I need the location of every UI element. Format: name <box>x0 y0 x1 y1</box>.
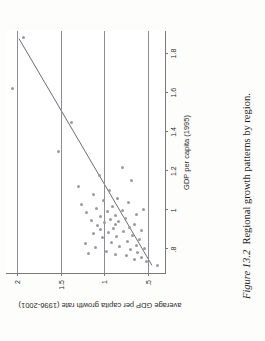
chart-plot-wrapper: .511.52.811.21.41.61.8 GDP per capita (1… <box>0 21 200 321</box>
scatter-point <box>92 193 95 196</box>
x-axis-tick <box>165 53 168 54</box>
x-axis-tick <box>165 248 168 249</box>
x-axis-tick-label: 1.4 <box>170 127 177 137</box>
scatter-point <box>135 244 138 247</box>
scatter-point <box>124 217 127 220</box>
scatter-point <box>106 210 109 213</box>
y-axis-tick <box>17 273 18 276</box>
scatter-point <box>111 205 114 208</box>
scatter-point <box>143 247 146 250</box>
gridline <box>61 31 62 273</box>
x-axis-tick-label: 1.6 <box>170 88 177 98</box>
scatter-point <box>121 209 124 212</box>
y-axis-tick <box>148 273 149 276</box>
scatter-point <box>90 219 93 222</box>
rotated-chart-container: .511.52.811.21.41.61.8 GDP per capita (1… <box>0 21 200 321</box>
y-axis-tick <box>61 273 62 276</box>
scatter-point <box>105 250 108 253</box>
scatter-point <box>80 203 83 206</box>
scatter-point <box>98 174 101 177</box>
gridline <box>104 31 105 273</box>
scatter-point <box>140 256 143 259</box>
scatter-point <box>156 264 159 267</box>
scanned-figure-page: .511.52.811.21.41.61.8 GDP per capita (1… <box>0 0 265 341</box>
y-axis-tick-label: 1.5 <box>57 280 64 290</box>
scatter-point <box>103 221 106 224</box>
x-axis-tick-label: 1.2 <box>170 166 177 176</box>
scatter-point <box>133 223 136 226</box>
figure-caption-label: Figure 13.2 <box>241 249 252 298</box>
figure-caption: Figure 13.2 Regional growth patterns by … <box>231 0 261 341</box>
gridline <box>148 31 149 273</box>
scatter-point <box>145 260 148 263</box>
regression-fit-line <box>6 31 165 273</box>
scatter-point <box>117 220 120 223</box>
scatter-point <box>109 218 112 221</box>
x-axis-tick-label: 1 <box>170 208 177 212</box>
x-axis-title: GDP per capita (1995) <box>182 31 191 274</box>
scatter-point <box>126 240 129 243</box>
scatter-point <box>77 185 80 188</box>
figure-caption-inner: Figure 13.2 Regional growth patterns by … <box>241 21 252 321</box>
x-axis-tick <box>165 92 168 93</box>
scatter-point <box>118 245 121 248</box>
y-axis-tick-label: 1 <box>101 280 108 284</box>
scatter-point <box>95 207 98 210</box>
x-axis-tick-label: 1.8 <box>170 49 177 59</box>
y-axis-title: average GDP per capita growth rate (1996… <box>15 301 185 310</box>
y-axis-tick-label: 2 <box>13 280 20 284</box>
gridline <box>17 31 18 273</box>
y-axis-tick <box>104 273 105 276</box>
scatter-point <box>125 254 128 257</box>
x-axis-tick <box>165 209 168 210</box>
scatter-point <box>70 121 73 124</box>
scatter-point <box>142 208 145 211</box>
x-axis-tick <box>165 131 168 132</box>
scatter-point <box>114 253 117 256</box>
scatter-point <box>133 258 136 261</box>
scatter-point <box>127 201 130 204</box>
y-axis-tick-label: .5 <box>145 280 152 286</box>
x-axis-tick-label: .8 <box>170 247 177 253</box>
chart-plot-area: .511.52.811.21.41.61.8 <box>6 31 166 274</box>
figure-caption-text: Regional growth patterns by region. <box>241 93 252 244</box>
x-axis-tick <box>165 170 168 171</box>
scatter-point <box>84 242 87 245</box>
